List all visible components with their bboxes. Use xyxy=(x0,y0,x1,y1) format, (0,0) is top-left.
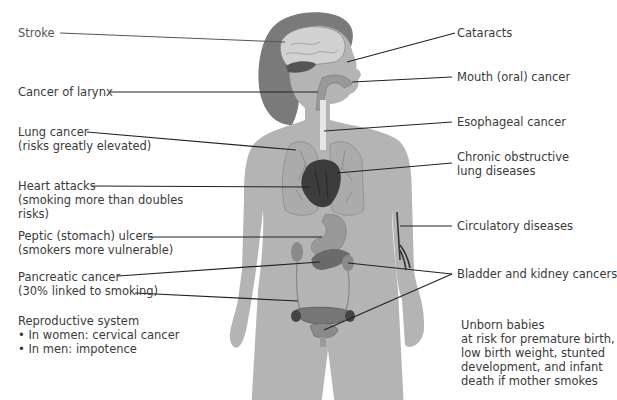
label-lung-cancer: Lung cancer (risks greatly elevated) xyxy=(18,125,151,153)
brain-shape xyxy=(280,27,345,68)
label-subtext: development, and infant xyxy=(461,360,615,374)
bullet-item: In men: impotence xyxy=(18,342,179,356)
label-subtext: lung diseases xyxy=(457,164,569,178)
label-text: Lung cancer xyxy=(18,125,151,139)
label-circulatory-diseases: Circulatory diseases xyxy=(457,219,573,233)
label-larynx: Cancer of larynx xyxy=(18,85,113,99)
label-text: Peptic (stomach) ulcers xyxy=(18,229,173,243)
label-esophageal-cancer: Esophageal cancer xyxy=(457,115,566,129)
label-copd: Chronic obstructive lung diseases xyxy=(457,150,569,178)
label-subtext: risks) xyxy=(18,207,183,221)
label-stroke: Stroke xyxy=(18,26,55,40)
label-text: Reproductive system xyxy=(18,314,179,328)
label-subtext: (smokers more vulnerable) xyxy=(18,243,173,257)
label-text: Heart attacks xyxy=(18,179,183,193)
label-text: Esophageal cancer xyxy=(457,115,566,129)
label-subtext: (smoking more than doubles xyxy=(18,193,183,207)
label-text: Cancer of larynx xyxy=(18,85,113,99)
label-subtext: (30% linked to smoking) xyxy=(18,284,158,298)
label-cataracts: Cataracts xyxy=(457,26,512,40)
label-peptic-ulcers: Peptic (stomach) ulcers (smokers more vu… xyxy=(18,229,173,257)
label-text: Cataracts xyxy=(457,26,512,40)
label-text: Pancreatic cancer xyxy=(18,270,158,284)
label-subtext: at risk for premature birth, xyxy=(461,332,615,346)
label-reproductive-system: Reproductive system In women: cervical c… xyxy=(18,314,179,356)
label-subtext: death if mother smokes xyxy=(461,374,615,388)
label-text: Stroke xyxy=(18,26,55,40)
label-mouth-cancer: Mouth (oral) cancer xyxy=(457,70,570,84)
label-unborn-babies: Unborn babies at risk for premature birt… xyxy=(461,318,615,388)
bullet-item: In women: cervical cancer xyxy=(18,328,179,342)
label-text: Unborn babies xyxy=(461,318,615,332)
label-pancreatic-cancer: Pancreatic cancer (30% linked to smoking… xyxy=(18,270,158,298)
left-kidney xyxy=(291,242,303,262)
label-subtext: low birth weight, stunted xyxy=(461,346,615,360)
label-bladder-kidney: Bladder and kidney cancers xyxy=(457,267,617,281)
label-text: Mouth (oral) cancer xyxy=(457,70,570,84)
label-subtext: (risks greatly elevated) xyxy=(18,139,151,153)
label-text: Circulatory diseases xyxy=(457,219,573,233)
label-text: Bladder and kidney cancers xyxy=(457,267,617,281)
label-heart-attacks: Heart attacks (smoking more than doubles… xyxy=(18,179,183,221)
label-text: Chronic obstructive xyxy=(457,150,569,164)
